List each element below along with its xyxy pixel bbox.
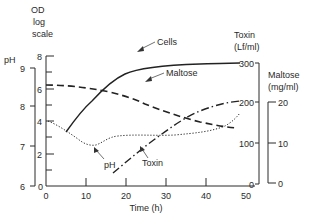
svg-text:20: 20 xyxy=(121,191,131,201)
svg-text:100: 100 xyxy=(239,139,254,149)
svg-text:0: 0 xyxy=(278,179,283,189)
svg-text:Maltose: Maltose xyxy=(166,68,198,78)
svg-text:10: 10 xyxy=(278,139,288,149)
svg-text:30: 30 xyxy=(161,191,171,201)
svg-text:8: 8 xyxy=(37,52,42,62)
cells-annotation: Cells xyxy=(137,37,178,52)
cells-curve xyxy=(66,63,240,132)
svg-text:4: 4 xyxy=(37,117,42,127)
toxin-axis-title-line1: Toxin xyxy=(234,30,255,40)
maltose-axis: 20 10 0 xyxy=(268,98,288,189)
svg-text:9: 9 xyxy=(20,64,25,74)
maltose-annotation: Maltose xyxy=(145,68,198,82)
svg-text:300: 300 xyxy=(239,59,254,69)
toxin-axis-title-line2: (Lf/ml) xyxy=(234,42,260,52)
svg-text:2: 2 xyxy=(37,150,42,160)
toxin-axis: 300 200 100 0 xyxy=(239,59,259,190)
toxin-annotation: Toxin xyxy=(140,146,163,168)
svg-text:40: 40 xyxy=(201,191,211,201)
ph-axis-title: pH xyxy=(4,55,16,65)
svg-text:6: 6 xyxy=(37,85,42,95)
svg-text:50: 50 xyxy=(241,191,251,201)
svg-text:8: 8 xyxy=(20,102,25,112)
svg-text:6: 6 xyxy=(20,182,25,192)
maltose-axis-title-line1: Maltose xyxy=(268,70,300,80)
svg-text:Toxin: Toxin xyxy=(142,158,163,168)
svg-text:pH: pH xyxy=(104,160,116,170)
x-axis-title: Time (h) xyxy=(129,203,162,213)
toxin-curve xyxy=(113,101,240,173)
ph-axis: 9 8 7 6 xyxy=(20,64,35,192)
ph-annotation: pH xyxy=(94,147,116,170)
svg-text:200: 200 xyxy=(239,98,254,108)
x-axis: 0 10 20 30 40 50 Time (h) xyxy=(43,178,255,213)
od-axis-title-line1: OD xyxy=(31,5,45,15)
od-axis-title-line2: log xyxy=(33,17,45,27)
svg-text:7: 7 xyxy=(20,142,25,152)
growth-chart: OD log scale pH Toxin (Lf/ml) Maltose (m… xyxy=(0,0,316,221)
svg-text:0: 0 xyxy=(38,182,43,192)
maltose-axis-title-line2: (mg/ml) xyxy=(268,82,299,92)
svg-text:20: 20 xyxy=(278,98,288,108)
svg-text:Cells: Cells xyxy=(157,37,178,47)
svg-text:0: 0 xyxy=(43,191,48,201)
svg-text:0: 0 xyxy=(249,180,254,190)
od-axis-title-line3: scale xyxy=(32,29,53,39)
svg-text:10: 10 xyxy=(81,191,91,201)
